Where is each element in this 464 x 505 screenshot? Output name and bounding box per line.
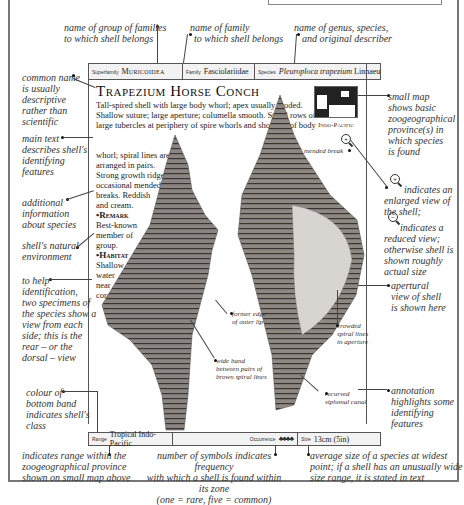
recurved-canal-label: recurved siphonal canal [325, 390, 366, 406]
identification-annotation: to help identification, two specimens of… [22, 275, 96, 363]
range-cell: Range Tropical Indo-Pacific [89, 433, 173, 445]
wide-band-label: wide band between pairs of brown spiral … [216, 357, 267, 381]
species-annotation: name of genus, species, and original des… [294, 22, 392, 44]
map-label: Indo-Pacific [318, 121, 354, 129]
superfamily-annotation: name of group of families to which shell… [64, 22, 166, 44]
band-colour-annotation: colour of bottom band indicates shell's … [26, 387, 90, 431]
common-name-annotation: common name is usually descriptive rathe… [22, 72, 80, 127]
mended-break-label: mended break [304, 147, 343, 155]
enlarged-view-icon: + [390, 174, 400, 184]
crowded-lines-label: crowded spiral lines in aperture [337, 322, 368, 346]
family-annotation: name of family to which shell belongs [190, 22, 283, 44]
size-cell: Size 13cm (5in) [298, 433, 380, 445]
former-edge-label: former edge of outer lip [232, 310, 266, 326]
occurrence-symbols-icon: ♣♣♣♣ [279, 435, 293, 443]
annotation-annotation: annotation highlights some identifying f… [391, 385, 454, 429]
environment-annotation: shell's natural environment [22, 240, 79, 262]
range-annotation: indicates range within the zoogeographic… [22, 450, 130, 483]
shell-dorsal-view [100, 135, 230, 435]
apertural-annotation: apertural view of shell is shown here [391, 280, 446, 313]
reduced-annotation: indicates a reduced view; otherwise shel… [384, 222, 453, 277]
occurrence-annotation: number of symbols indicates frequency wi… [144, 450, 284, 505]
occurrence-cell: Occurrence ♣♣♣♣ [173, 433, 298, 445]
enlarge-icon: + [341, 134, 351, 144]
zoogeographic-map [314, 86, 358, 118]
additional-info-annotation: additional information about species [22, 197, 76, 230]
main-text-annotation: main text describes shell's identifying … [22, 133, 87, 177]
reduced-view-icon: − [388, 212, 398, 222]
map-annotation: small map shows basic zoogeographical pr… [388, 91, 455, 157]
info-footer: Range Tropical Indo-Pacific Occurrence ♣… [88, 432, 381, 446]
size-annotation: average size of a species at widest poin… [310, 450, 463, 483]
top-box [268, 0, 442, 5]
